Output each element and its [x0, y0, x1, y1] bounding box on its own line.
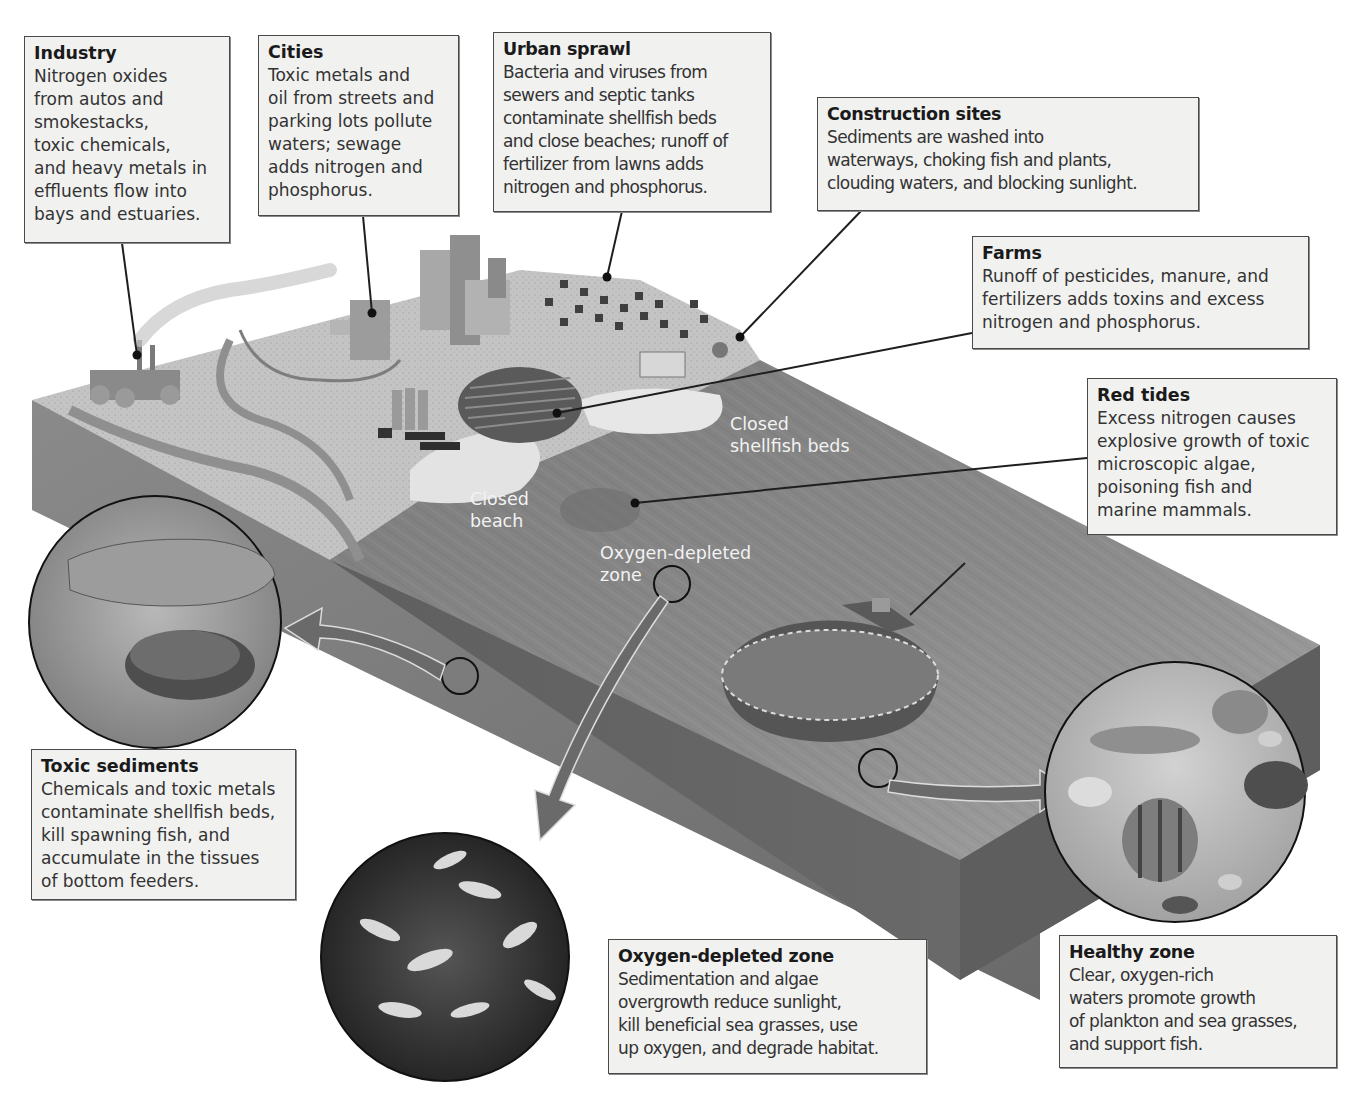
- construction-site: [712, 342, 728, 358]
- callout-title: Urban sprawl: [503, 38, 761, 61]
- callout-cities: Cities Toxic metals and oil from streets…: [258, 35, 459, 216]
- toxic-sediments-inset: [29, 496, 281, 748]
- callout-title: Toxic sediments: [41, 755, 286, 778]
- callout-body: Runoff of pesticides, manure, and fertil…: [982, 265, 1299, 334]
- oxygen-depleted-inset: [321, 833, 569, 1081]
- callout-farms: Farms Runoff of pesticides, manure, and …: [972, 236, 1309, 349]
- callout-title: Healthy zone: [1069, 941, 1327, 964]
- callout-industry: Industry Nitrogen oxides from autos and …: [24, 36, 230, 243]
- callout-body: Sedimentation and algae overgrowth reduc…: [618, 968, 917, 1060]
- callout-oxygen-depleted-zone: Oxygen-depleted zone Sedimentation and a…: [608, 939, 927, 1074]
- callout-body: Clear, oxygen-rich waters promote growth…: [1069, 964, 1327, 1056]
- label-closed-shellfish-beds: Closed shellfish beds: [730, 413, 850, 457]
- label-oxygen-depleted-zone: Oxygen-depleted zone: [600, 542, 751, 586]
- factory: [90, 340, 180, 408]
- label-closed-beach: Closed beach: [470, 488, 529, 532]
- callout-body: Sediments are washed into waterways, cho…: [827, 126, 1189, 195]
- construction-building: [640, 352, 685, 377]
- callout-body: Excess nitrogen causes explosive growth …: [1097, 407, 1327, 522]
- callout-toxic-sediments: Toxic sediments Chemicals and toxic meta…: [31, 749, 296, 900]
- callout-body: Bacteria and viruses from sewers and sep…: [503, 61, 761, 199]
- callout-title: Oxygen-depleted zone: [618, 945, 917, 968]
- callout-title: Red tides: [1097, 384, 1327, 407]
- red-tide-patch: [560, 488, 640, 532]
- callout-title: Industry: [34, 42, 220, 65]
- callout-title: Construction sites: [827, 103, 1189, 126]
- callout-title: Cities: [268, 41, 449, 64]
- callout-construction-sites: Construction sites Sediments are washed …: [817, 97, 1199, 211]
- callout-red-tides: Red tides Excess nitrogen causes explosi…: [1087, 378, 1337, 535]
- callout-body: Chemicals and toxic metals contaminate s…: [41, 778, 286, 893]
- callout-body: Nitrogen oxides from autos and smokestac…: [34, 65, 220, 226]
- healthy-zone-inset: [1045, 662, 1308, 922]
- callout-title: Farms: [982, 242, 1299, 265]
- callout-body: Toxic metals and oil from streets and pa…: [268, 64, 449, 202]
- callout-healthy-zone: Healthy zone Clear, oxygen-rich waters p…: [1059, 935, 1337, 1068]
- callout-urban-sprawl: Urban sprawl Bacteria and viruses from s…: [493, 32, 771, 212]
